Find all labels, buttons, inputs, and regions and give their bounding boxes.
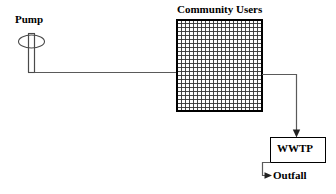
wwtp-label: WWTP	[277, 143, 313, 154]
arrowhead-into-wwtp	[293, 130, 300, 138]
outfall-label: Outfall	[273, 170, 307, 181]
community-users-label: Community Users	[177, 4, 262, 15]
pipe-community-to-wwtp	[262, 75, 300, 138]
pump-label: Pump	[15, 14, 43, 25]
pipe-wwtp-to-outfall	[263, 163, 273, 179]
pump-symbol	[19, 34, 45, 73]
diagram-canvas: Pump Community Users WWTP Outfall	[0, 0, 336, 194]
diagram-vector-layer	[0, 0, 336, 194]
arrowhead-to-outfall	[265, 172, 273, 179]
community-users-grid	[177, 20, 262, 111]
